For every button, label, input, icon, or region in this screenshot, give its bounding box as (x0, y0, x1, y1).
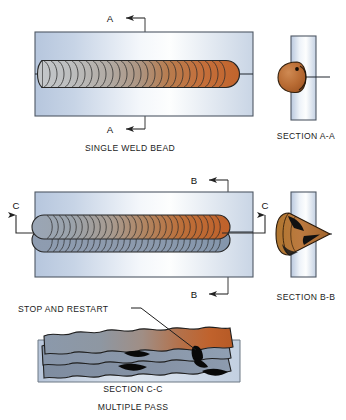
weld-bead-upper-row (32, 215, 230, 239)
diagram-canvas: A A SINGLE WELD BEAD SECTION A-A (0, 0, 346, 420)
caption-multiple-pass: MULTIPLE PASS (98, 402, 169, 412)
section-label-b-top: B (191, 175, 197, 186)
annotation-stop-and-restart: STOP AND RESTART (18, 304, 109, 314)
caption-section-bb: SECTION B-B (277, 292, 336, 302)
caption-section-cc: SECTION C-C (103, 384, 163, 394)
caption-section-aa: SECTION A-A (277, 131, 335, 141)
caption-single-weld-bead: SINGLE WELD BEAD (85, 143, 175, 153)
weld-diagram-svg: A A SINGLE WELD BEAD SECTION A-A (0, 0, 346, 420)
section-label-b-bottom: B (191, 289, 197, 300)
section-label-c-right: C (262, 200, 269, 211)
section-label-c-left: C (13, 200, 20, 211)
weld-bead-single (38, 61, 240, 88)
section-label-a-bottom: A (107, 124, 114, 135)
section-label-a-top: A (107, 13, 114, 24)
section-aa-porosity (295, 67, 299, 71)
